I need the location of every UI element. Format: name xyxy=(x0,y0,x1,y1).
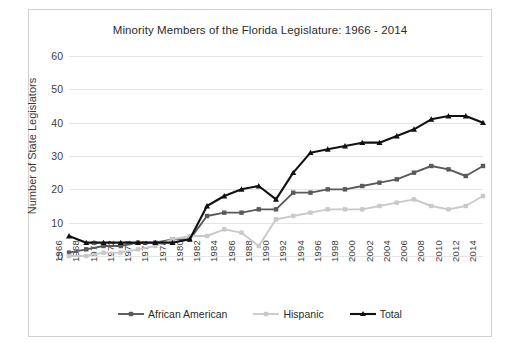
data-point xyxy=(291,190,295,194)
data-point xyxy=(222,210,226,214)
data-point xyxy=(446,167,450,171)
legend-label: Total xyxy=(380,309,402,320)
legend-item-total[interactable]: Total xyxy=(350,309,402,320)
data-point xyxy=(274,217,278,221)
data-point xyxy=(377,180,381,184)
data-point xyxy=(67,254,71,258)
legend-item-african-american[interactable]: African American xyxy=(118,309,227,320)
series-hispanic xyxy=(67,194,485,258)
data-point xyxy=(205,214,209,218)
data-point xyxy=(395,177,399,181)
data-point xyxy=(101,250,105,254)
chart-figure: Minority Members of the Florida Legislat… xyxy=(0,0,521,346)
y-tick-label: 10 xyxy=(51,217,63,229)
y-axis-title: Number of State Legislators xyxy=(26,61,38,231)
legend-key-icon xyxy=(253,309,279,319)
x-tick-label: 1966 xyxy=(53,240,64,262)
data-point xyxy=(84,254,88,258)
data-point xyxy=(343,207,347,211)
data-point xyxy=(239,210,243,214)
legend-item-hispanic[interactable]: Hispanic xyxy=(253,309,323,320)
data-point xyxy=(464,204,468,208)
data-point xyxy=(343,187,347,191)
y-tick-label: 60 xyxy=(51,50,63,62)
y-tick-label: 50 xyxy=(51,83,63,95)
data-point xyxy=(429,204,433,208)
data-point xyxy=(291,214,295,218)
data-point xyxy=(377,204,381,208)
data-point xyxy=(464,174,468,178)
data-point xyxy=(222,227,226,231)
data-point xyxy=(481,164,485,168)
series-lines xyxy=(69,56,483,256)
legend-label: African American xyxy=(148,309,227,320)
data-point xyxy=(360,184,364,188)
legend-label: Hispanic xyxy=(283,309,323,320)
chart-title: Minority Members of the Florida Legislat… xyxy=(28,24,492,36)
data-point xyxy=(360,207,364,211)
data-point xyxy=(257,207,261,211)
data-point xyxy=(257,244,261,248)
plot-area: 0102030405060 19661968197019721974197619… xyxy=(69,56,483,256)
data-point xyxy=(239,230,243,234)
data-point xyxy=(308,190,312,194)
chart-legend: African AmericanHispanicTotal xyxy=(28,309,492,320)
data-point xyxy=(326,207,330,211)
data-point xyxy=(84,247,88,251)
data-point xyxy=(429,164,433,168)
series-total xyxy=(66,113,486,245)
legend-key-icon xyxy=(118,309,144,319)
y-tick-label: 40 xyxy=(51,117,63,129)
data-point xyxy=(326,187,330,191)
data-point xyxy=(481,194,485,198)
y-tick-label: 20 xyxy=(51,183,63,195)
legend-key-icon xyxy=(350,309,376,319)
data-point xyxy=(136,247,140,251)
y-tick-label: 30 xyxy=(51,150,63,162)
data-point xyxy=(395,200,399,204)
series-african-american xyxy=(67,164,485,255)
data-point xyxy=(412,170,416,174)
data-point xyxy=(205,234,209,238)
data-point xyxy=(119,250,123,254)
data-point xyxy=(308,210,312,214)
data-point xyxy=(274,207,278,211)
data-point xyxy=(446,207,450,211)
data-point xyxy=(412,197,416,201)
